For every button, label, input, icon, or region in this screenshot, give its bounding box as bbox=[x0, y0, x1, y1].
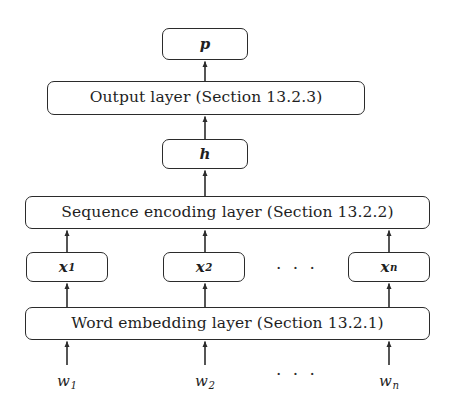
node-xn: xn bbox=[348, 252, 430, 282]
leaf-wn-subscript: n bbox=[392, 379, 399, 390]
node-word-embedding-layer: Word embedding layer (Section 13.2.1) bbox=[25, 307, 430, 340]
node-h: h bbox=[162, 139, 248, 169]
node-x1-label: x bbox=[59, 260, 68, 275]
architecture-diagram: p Output layer (Section 13.2.3) h Sequen… bbox=[0, 0, 456, 414]
leaf-wn-label: w bbox=[379, 372, 392, 390]
node-sequence-encoding-layer: Sequence encoding layer (Section 13.2.2) bbox=[25, 196, 430, 229]
leaf-wn: wn bbox=[379, 372, 399, 391]
leaf-w1-label: w bbox=[57, 372, 70, 390]
node-sequence-encoding-layer-label: Sequence encoding layer (Section 13.2.2) bbox=[61, 205, 393, 221]
leaf-w1-subscript: 1 bbox=[70, 379, 76, 390]
node-word-embedding-layer-label: Word embedding layer (Section 13.2.1) bbox=[71, 316, 384, 332]
leaf-w2-subscript: 2 bbox=[208, 379, 214, 390]
node-x2: x2 bbox=[163, 252, 245, 282]
leaf-w2-label: w bbox=[195, 372, 208, 390]
node-xn-label: x bbox=[381, 260, 390, 275]
ellipsis-embeddings-row: · · · bbox=[276, 258, 318, 278]
node-output-layer-label: Output layer (Section 13.2.3) bbox=[90, 90, 323, 106]
ellipsis-tokens-row: · · · bbox=[276, 364, 318, 384]
node-x2-subscript: 2 bbox=[205, 262, 212, 272]
leaf-w2: w2 bbox=[195, 372, 215, 391]
node-x2-label: x bbox=[196, 260, 205, 275]
node-x1: x1 bbox=[26, 252, 108, 282]
node-h-label: h bbox=[200, 147, 211, 162]
node-p-label: p bbox=[200, 37, 211, 52]
node-p: p bbox=[162, 28, 248, 60]
node-x1-subscript: 1 bbox=[68, 262, 75, 272]
node-xn-subscript: n bbox=[390, 262, 397, 272]
leaf-w1: w1 bbox=[57, 372, 77, 391]
node-output-layer: Output layer (Section 13.2.3) bbox=[47, 81, 365, 115]
